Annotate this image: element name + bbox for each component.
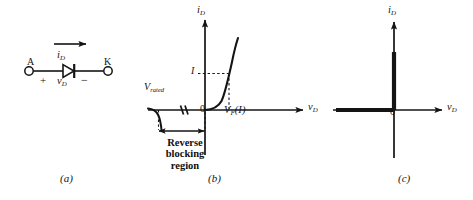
- rated-voltage-subscript: rated: [150, 86, 164, 93]
- panel-b-caption: (b): [208, 172, 221, 184]
- polarity-minus-label: −: [81, 74, 88, 86]
- panel-b-x-axis-label: vD: [308, 102, 318, 113]
- panel-b-origin-label: 0: [200, 104, 205, 114]
- panel-a-current-subscript: D: [60, 54, 65, 61]
- forward-voltage-label: VF(I): [224, 105, 246, 116]
- panel-a-caption: (a): [60, 172, 73, 184]
- reverse-breakdown-curve: [148, 109, 162, 132]
- current-level-label: I: [191, 66, 194, 76]
- cathode-label: K: [104, 57, 111, 67]
- anode-label: A: [27, 57, 34, 67]
- figure-root: A K iD vD + − iD vD I 0 Vrated VF(I) Rev…: [0, 0, 473, 200]
- panel-c-caption: (c): [398, 172, 410, 184]
- panel-c-y-axis-label: iD: [388, 5, 396, 16]
- panel-a-voltage-label: vD: [57, 76, 67, 87]
- panel-a-current-label: iD: [57, 50, 65, 61]
- figure-vector-layer: [0, 0, 473, 200]
- panel-c-x-axis-label: vD: [447, 102, 457, 113]
- panel-a-voltage-subscript: D: [62, 80, 67, 87]
- panel-c-y-axis-subscript: D: [391, 9, 396, 16]
- anode-terminal-node: [25, 67, 33, 75]
- forward-voltage-argument: (I): [235, 104, 246, 115]
- panel-b-x-axis-subscript: D: [313, 106, 318, 113]
- reverse-blocking-region-label: Reverse blocking region: [152, 137, 218, 171]
- panel-c-origin-label: 0: [390, 107, 395, 117]
- polarity-plus-label: +: [40, 75, 46, 86]
- panel-c-ideal-characteristic: [333, 22, 442, 158]
- panel-b-y-axis-subscript: D: [200, 9, 205, 16]
- panel-c-x-axis-subscript: D: [452, 106, 457, 113]
- reverse-blocking-line-3: region: [152, 160, 218, 171]
- panel-b-y-axis-label: iD: [197, 5, 205, 16]
- reverse-blocking-line-1: Reverse: [152, 137, 218, 148]
- panel-b-real-characteristic: [148, 20, 303, 155]
- panel-a-diode-symbol: [25, 44, 112, 78]
- reverse-blocking-line-2: blocking: [152, 148, 218, 159]
- cathode-terminal-node: [104, 67, 112, 75]
- rated-voltage-label: Vrated: [144, 82, 164, 94]
